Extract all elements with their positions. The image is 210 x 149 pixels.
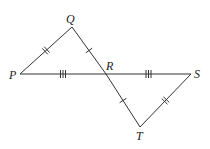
label-t: T [136,129,144,143]
tick-mark [120,98,127,102]
segment-pq [20,27,72,74]
label-q: Q [66,12,75,26]
tick-marks [42,47,169,104]
segments [20,27,191,127]
tick-mark [86,48,92,53]
label-s: S [194,67,200,81]
label-r: R [105,59,114,73]
segment-ts [140,74,191,127]
label-p: P [8,68,17,82]
geometry-diagram: Q P R S T [0,0,210,149]
